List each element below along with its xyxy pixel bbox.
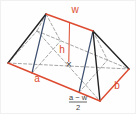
slant-edge-front-right bbox=[93, 31, 100, 101]
fraction-denominator: 2 bbox=[76, 103, 80, 112]
fraction-group: a − w 2 bbox=[69, 93, 88, 112]
height-line-h bbox=[69, 23, 70, 62]
diagram-canvas: w h a b × a − w 2 bbox=[0, 0, 136, 114]
label-b: b bbox=[114, 80, 120, 91]
section-line-right-front bbox=[79, 31, 93, 93]
label-h: h bbox=[59, 44, 65, 55]
highlight-edges-group bbox=[8, 14, 129, 101]
hidden-base-edge-back bbox=[37, 31, 129, 69]
slant-edge-back-right bbox=[93, 31, 129, 69]
center-cross-mark: × bbox=[65, 60, 72, 69]
label-a: a bbox=[34, 73, 40, 84]
label-w: w bbox=[70, 4, 79, 15]
fraction-numerator: a − w bbox=[69, 93, 88, 102]
wedge-prism-diagram: w h a b × a − w 2 bbox=[1, 1, 136, 114]
